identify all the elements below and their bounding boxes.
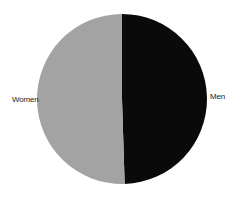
pie-slice-women xyxy=(37,14,125,184)
label-men: Men xyxy=(210,92,225,101)
label-women: Women xyxy=(12,95,38,104)
pie-slice-men xyxy=(122,14,207,184)
